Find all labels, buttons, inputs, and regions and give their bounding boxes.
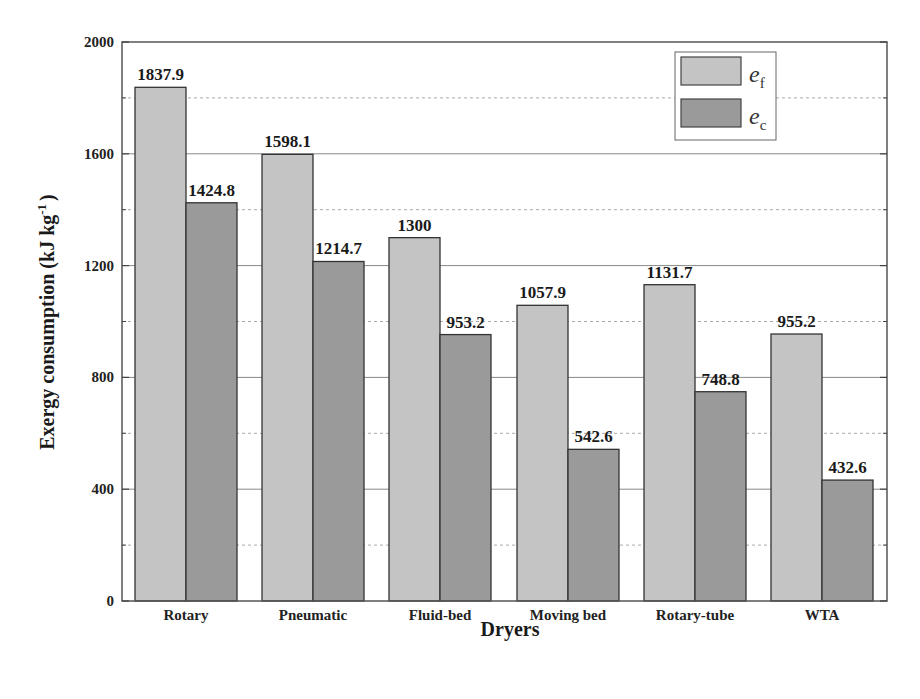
bar-e_f [644, 285, 695, 601]
value-label: 1300 [398, 216, 432, 235]
y-axis-title: Exergy consumption (kJ kg-1) [34, 194, 59, 450]
bar-e_c [313, 261, 364, 601]
x-category-label: Moving bed [530, 607, 607, 623]
y-axis-title-sup: -1 [34, 204, 49, 215]
y-tick-label: 400 [92, 481, 115, 497]
value-label: 1424.8 [188, 181, 235, 200]
bar-e_c [822, 480, 873, 601]
y-tick-label: 1200 [84, 258, 114, 274]
bar-e_c [440, 335, 491, 601]
bar-e_f [262, 154, 313, 601]
bar-e_f [389, 238, 440, 601]
bar-e_f [771, 334, 822, 601]
x-category-label: Rotary [164, 607, 209, 623]
value-label: 953.2 [446, 313, 484, 332]
bar-e_f [135, 87, 186, 601]
value-label: 1598.1 [264, 132, 311, 151]
value-label: 748.8 [701, 370, 739, 389]
legend: ef ec [675, 52, 776, 140]
x-category-label: Rotary-tube [656, 607, 735, 623]
x-category-label: Pneumatic [279, 607, 348, 623]
legend-swatch-ec [681, 99, 741, 127]
value-label: 432.6 [828, 458, 866, 477]
legend-swatch-ef [681, 57, 741, 85]
bar-e_c [695, 392, 746, 601]
bar-chart: 0400800120016002000 RotaryPneumaticFluid… [0, 0, 920, 699]
x-axis-title: Dryers [481, 618, 540, 641]
value-label: 1131.7 [647, 263, 693, 282]
y-tick-label: 2000 [84, 34, 114, 50]
value-label: 1837.9 [137, 65, 184, 84]
y-axis-title-close: ) [36, 194, 59, 201]
value-label: 1214.7 [315, 239, 362, 258]
y-tick-label: 0 [107, 593, 115, 609]
bar-e_c [186, 203, 237, 601]
x-category-label: Fluid-bed [409, 607, 472, 623]
value-label: 542.6 [574, 427, 612, 446]
y-tick-label: 800 [92, 369, 115, 385]
bar-e_c [568, 449, 619, 601]
value-label: 1057.9 [519, 283, 566, 302]
x-category-label: WTA [805, 607, 840, 623]
y-axis-title-main: Exergy consumption (kJ kg [36, 215, 59, 450]
value-label: 955.2 [777, 312, 815, 331]
y-tick-label: 1600 [84, 146, 114, 162]
svg-text:Exergy consumption (kJ kg-1): Exergy consumption (kJ kg-1) [34, 194, 59, 450]
bar-e_f [517, 305, 568, 601]
bars-group [135, 87, 873, 601]
